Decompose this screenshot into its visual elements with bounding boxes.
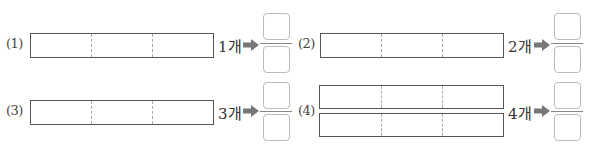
fraction-bar-bottom: [319, 113, 504, 137]
divider-dashed: [381, 114, 382, 136]
numerator-input[interactable]: [263, 13, 290, 40]
piece-count: 2개: [508, 35, 532, 56]
denominator-input[interactable]: [263, 46, 290, 73]
divider-dashed: [442, 86, 443, 108]
divider-dashed: [91, 101, 92, 124]
divider-dashed: [152, 34, 153, 57]
numerator-input[interactable]: [554, 13, 581, 40]
fraction-bar: [30, 33, 214, 58]
divider-dashed: [442, 34, 443, 57]
problem-number: (3): [6, 103, 23, 118]
fraction-line: [551, 43, 583, 44]
fraction-bar: [30, 100, 214, 125]
fraction-line: [551, 111, 583, 112]
divider-dashed: [152, 101, 153, 124]
fraction-bar: [320, 33, 504, 58]
denominator-input[interactable]: [554, 114, 581, 141]
problem-number: (4): [298, 103, 315, 118]
problem-number: (1): [6, 36, 23, 51]
piece-count: 3개: [218, 102, 242, 123]
right-arrow-icon: [243, 105, 259, 117]
right-arrow-icon: [534, 105, 550, 117]
divider-dashed: [91, 34, 92, 57]
right-arrow-icon: [534, 39, 550, 51]
piece-count: 1개: [218, 35, 242, 56]
denominator-input[interactable]: [554, 46, 581, 73]
piece-count: 4개: [508, 102, 532, 123]
problem-number: (2): [298, 36, 315, 51]
numerator-input[interactable]: [263, 82, 290, 109]
numerator-input[interactable]: [554, 82, 581, 109]
divider-dashed: [442, 114, 443, 136]
denominator-input[interactable]: [263, 114, 290, 141]
divider-dashed: [381, 34, 382, 57]
fraction-line: [260, 111, 292, 112]
fraction-bar-top: [319, 85, 504, 109]
fraction-line: [260, 43, 292, 44]
divider-dashed: [381, 86, 382, 108]
right-arrow-icon: [243, 39, 259, 51]
